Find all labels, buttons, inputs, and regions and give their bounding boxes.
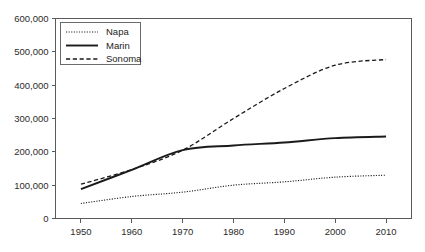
legend: NapaMarinSonoma (61, 23, 143, 65)
legend-label-napa: Napa (106, 26, 129, 37)
x-tick-label: 2010 (376, 226, 397, 237)
x-tick-label: 1960 (121, 226, 142, 237)
x-tick-label: 1980 (223, 226, 244, 237)
x-tick-label: 1990 (274, 226, 295, 237)
x-axis-ticks: 1950196019701980199020002010 (70, 219, 396, 237)
legend-label-marin: Marin (106, 40, 130, 51)
y-tick-label: 0 (43, 213, 48, 224)
y-tick-label: 500,000 (14, 46, 48, 57)
series-line-sonoma (81, 60, 386, 185)
y-tick-label: 300,000 (14, 113, 48, 124)
y-tick-label: 400,000 (14, 80, 48, 91)
line-chart: 0100,000200,000300,000400,000500,000600,… (0, 0, 425, 252)
y-tick-label: 600,000 (14, 13, 48, 24)
x-tick-label: 1970 (172, 226, 193, 237)
y-axis-ticks: 0100,000200,000300,000400,000500,000600,… (14, 13, 55, 224)
y-tick-label: 100,000 (14, 180, 48, 191)
x-tick-label: 2000 (325, 226, 346, 237)
series-line-napa (81, 175, 386, 203)
legend-label-sonoma: Sonoma (106, 53, 142, 64)
x-tick-label: 1950 (70, 226, 91, 237)
series-group (81, 60, 386, 204)
y-tick-label: 200,000 (14, 146, 48, 157)
chart-canvas: 0100,000200,000300,000400,000500,000600,… (0, 0, 425, 252)
series-line-marin (81, 137, 386, 190)
